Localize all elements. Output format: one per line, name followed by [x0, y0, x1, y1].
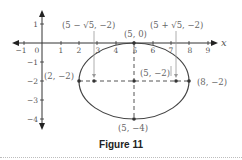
y-tick-label: −4: [27, 115, 38, 124]
x-tick-label: −1: [15, 46, 26, 55]
x-tick-label: 0: [35, 46, 40, 55]
y-tick-label: −3: [27, 96, 38, 105]
top-vertex-label: (5, 0): [124, 29, 147, 39]
x-tick-label: 5: [133, 46, 138, 55]
left-vertex-dot: [77, 79, 81, 83]
x-tick-labels: −1 0 1 2 3 4 5 6 7 8 9: [15, 46, 210, 55]
y-tick-label: −2: [27, 77, 38, 86]
top-vertex-dot: [132, 41, 136, 45]
point-labels: (5 − √5, −2) (5 + √5, −2) (5, 0) (2, −2)…: [44, 20, 227, 133]
x-tick-label: 1: [59, 46, 64, 55]
x-tick-label: 8: [188, 46, 193, 55]
x-tick-label: 4: [114, 46, 119, 55]
x-tick-label: 2: [77, 46, 82, 55]
right-focus-arrow-icon: [174, 74, 178, 78]
ellipse-figure: x −1 0 1 2 3 4 5 6 7 8 9 1: [0, 0, 242, 160]
x-tick-label: 6: [151, 46, 156, 55]
right-focus-label: (5 + √5, −2): [150, 20, 203, 30]
bottom-vertex-dot: [132, 117, 136, 121]
right-vertex-dot: [187, 79, 191, 83]
center-label: (5, −2): [140, 68, 170, 78]
divider: [0, 157, 242, 158]
bottom-vertex-label: (5, −4): [118, 123, 148, 133]
center-dot: [132, 79, 136, 83]
y-tick-label: −1: [27, 58, 38, 67]
x-axis-label: x: [221, 37, 227, 48]
left-vertex-label: (2, −2): [44, 71, 74, 81]
y-tick-labels: 1 −1 −2 −3 −4: [27, 20, 38, 124]
figure-caption: Figure 11: [0, 139, 242, 150]
left-focus-dot: [92, 79, 96, 83]
y-axis-down-arrow-icon: [39, 123, 45, 130]
right-focus-dot: [174, 79, 178, 83]
left-focus-label: (5 − √5, −2): [62, 20, 115, 30]
right-vertex-label: (8, −2): [197, 77, 227, 87]
x-tick-label: 9: [206, 46, 211, 55]
y-tick-label: 1: [33, 20, 38, 29]
y-axis-up-arrow-icon: [39, 10, 45, 17]
x-axis-right-arrow-icon: [211, 40, 218, 46]
left-focus-arrow-icon: [92, 74, 96, 78]
